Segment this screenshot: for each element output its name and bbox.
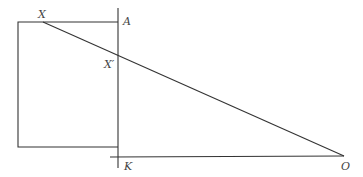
rectangle-outline	[18, 22, 118, 147]
diagram-canvas: X A X′ K O	[0, 0, 363, 177]
label-X-prime: X′	[103, 58, 115, 71]
label-A: A	[122, 15, 131, 28]
line-XO	[43, 22, 344, 156]
geometry-figure: X A X′ K O	[0, 0, 363, 177]
label-X: X	[37, 8, 47, 21]
label-O: O	[341, 160, 350, 173]
base-line-KO	[110, 156, 344, 157]
label-K: K	[123, 160, 133, 173]
